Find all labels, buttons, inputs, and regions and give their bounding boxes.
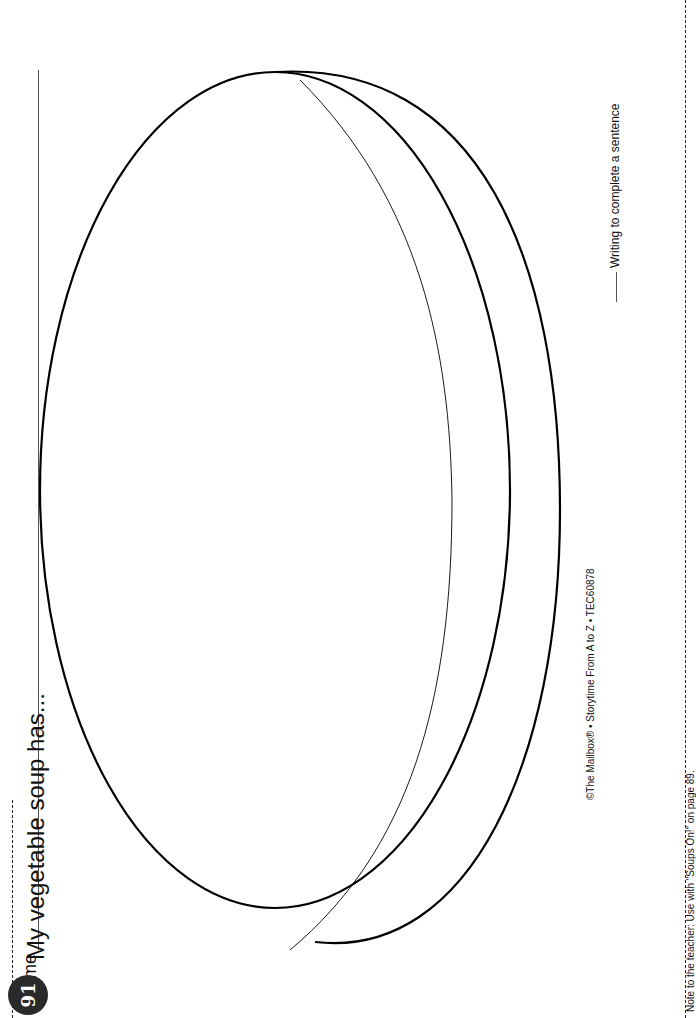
sentence-prompt: My vegetable soup has... (22, 693, 50, 960)
page-number-badge: 91 (8, 975, 48, 1015)
skill-label: Writing to complete a sentence (608, 103, 622, 268)
skill-divider (616, 272, 617, 302)
teacher-note: Note to the teacher: Use with "Soups On!… (685, 770, 696, 1012)
copyright-text: ©The Mailbox® • Storytime From A to Z • … (585, 568, 596, 800)
